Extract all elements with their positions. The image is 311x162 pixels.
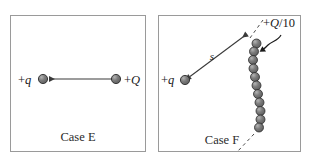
label-charge-q-case-e: +q [18, 73, 31, 87]
chain-sphere [256, 115, 265, 124]
panel-case-e: +q +Q Case E [11, 16, 146, 152]
physics-figure: +q +Q Case E s +q [0, 0, 311, 162]
label-charge-q-case-f: +q [161, 73, 174, 87]
caption-case-e: Case E [60, 130, 95, 144]
chain-sphere [250, 47, 259, 56]
sphere-charge-Q-case-e [111, 74, 120, 83]
chain-sphere [255, 98, 264, 107]
panel-case-f: s +q +Q/10 Case F [159, 16, 301, 152]
label-distance-s: s [210, 50, 214, 62]
label-charge-Q-case-e: +Q [124, 73, 140, 87]
sphere-charge-q-case-e [38, 74, 47, 83]
chain-sphere [254, 90, 263, 99]
case-f-border [159, 16, 301, 152]
sphere-charge-q-case-f [180, 75, 189, 84]
label-chain-charge: +Q/10 [263, 16, 295, 30]
figure-canvas: +q +Q Case E s +q [0, 0, 311, 162]
chain-sphere [249, 56, 258, 65]
chain-sphere [251, 73, 260, 82]
caption-case-f: Case F [205, 133, 239, 147]
chain-sphere [256, 107, 265, 116]
chain-sphere [255, 123, 264, 132]
chain-sphere [252, 81, 261, 90]
chain-sphere [249, 64, 258, 73]
